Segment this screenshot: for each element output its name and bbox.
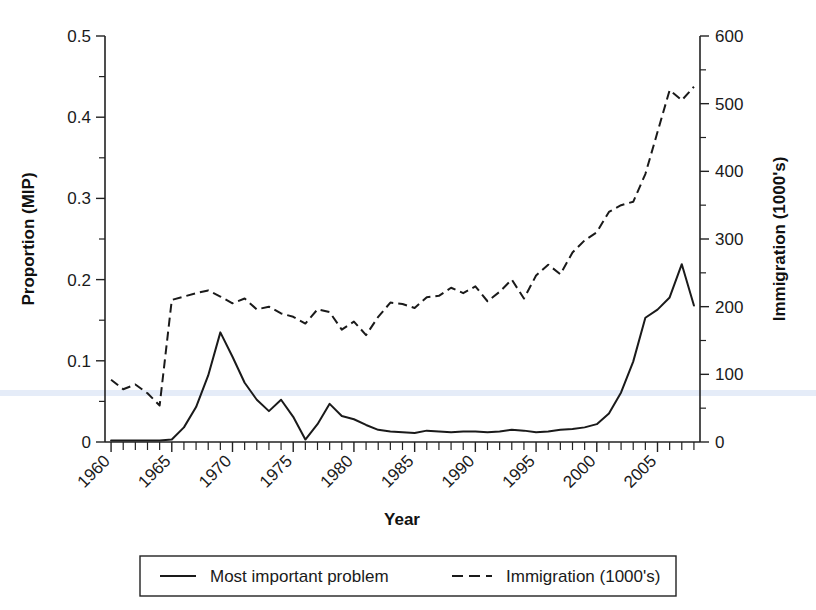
x-tick-label: 1995	[499, 451, 539, 491]
right-axis-ticks: 0100200300400500600	[700, 27, 743, 452]
x-tick-label: 2000	[559, 451, 599, 491]
x-axis-tick-labels: 1960196519701975198019851990199520002005	[74, 451, 661, 491]
x-tick-label: 1990	[438, 451, 478, 491]
x-tick-label: 1965	[134, 451, 174, 491]
x-tick-label: 2005	[620, 451, 660, 491]
x-tick-label: 1980	[317, 451, 357, 491]
y-tick-label: 0.3	[67, 189, 91, 208]
y2-axis-title: Immigration (1000's)	[770, 157, 789, 322]
y-tick-label: 0.5	[67, 27, 91, 46]
legend-label-most-important-problem: Most important problem	[210, 567, 389, 586]
scan-artifact	[0, 390, 816, 396]
x-tick-label: 1970	[195, 451, 235, 491]
y2-tick-label: 400	[715, 162, 743, 181]
chart-figure: 00.10.20.30.40.5 0100200300400500600 196…	[0, 0, 816, 610]
y2-tick-label: 0	[715, 433, 724, 452]
chart-svg: 00.10.20.30.40.5 0100200300400500600 196…	[0, 0, 816, 610]
x-tick-label: 1985	[377, 451, 417, 491]
y-tick-label: 0.4	[67, 108, 91, 127]
chart-legend: Most important problem Immigration (1000…	[140, 556, 676, 596]
y2-tick-label: 100	[715, 365, 743, 384]
y2-tick-label: 600	[715, 27, 743, 46]
legend-label-immigration: Immigration (1000's)	[506, 567, 660, 586]
y2-tick-label: 200	[715, 298, 743, 317]
left-axis-ticks: 00.10.20.30.40.5	[67, 27, 105, 452]
x-axis-title: Year	[384, 510, 420, 529]
x-tick-label: 1975	[256, 451, 296, 491]
y-tick-label: 0.2	[67, 271, 91, 290]
series-line-most-important-problem	[111, 264, 694, 440]
y-axis-title: Proportion (MIP)	[19, 172, 38, 305]
y2-tick-label: 500	[715, 95, 743, 114]
x-axis-ticks	[111, 442, 694, 452]
y-tick-label: 0.1	[67, 352, 91, 371]
y-tick-label: 0	[82, 433, 91, 452]
x-tick-label: 1960	[74, 451, 114, 491]
series-line-immigration	[111, 87, 694, 406]
y2-tick-label: 300	[715, 230, 743, 249]
